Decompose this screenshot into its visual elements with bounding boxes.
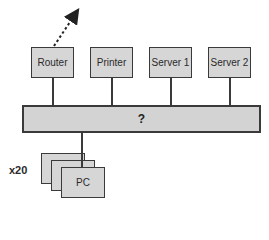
router-node: Router xyxy=(31,47,74,78)
bus-label: ? xyxy=(138,112,145,126)
server2-label: Server 2 xyxy=(211,57,249,68)
printer-connector xyxy=(111,78,113,105)
network-bus: ? xyxy=(22,105,261,133)
pc-connector xyxy=(81,133,83,167)
router-label: Router xyxy=(37,57,67,68)
server1-node: Server 1 xyxy=(149,47,192,78)
pc-count-label: x20 xyxy=(9,164,27,176)
server1-connector xyxy=(170,78,172,105)
printer-node: Printer xyxy=(90,47,133,78)
router-connector xyxy=(52,78,54,105)
server2-connector xyxy=(229,78,231,105)
pc-label: PC xyxy=(76,177,90,188)
server2-node: Server 2 xyxy=(208,47,251,78)
printer-label: Printer xyxy=(97,57,126,68)
server1-label: Server 1 xyxy=(152,57,190,68)
pc-node: PC xyxy=(61,167,105,198)
